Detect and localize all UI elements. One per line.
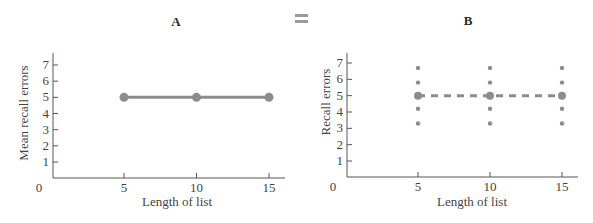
svg-text:0: 0 — [36, 180, 43, 195]
panel-a-x-label: Length of list — [142, 194, 212, 209]
panel-a-x-ticks: 051015 — [36, 173, 276, 195]
figure: A 1234567 051015 Mean recall errors Leng… — [0, 0, 593, 223]
svg-text:0: 0 — [330, 179, 337, 194]
svg-text:10: 10 — [484, 179, 497, 194]
panel-b-data-points — [414, 66, 566, 126]
panel-a-y-ticks: 1234567 — [43, 57, 59, 169]
panel-b: B 1234567 051015 Recall errors Length of… — [318, 13, 578, 209]
panel-a-y-label: Mean recall errors — [16, 65, 31, 160]
svg-text:5: 5 — [337, 88, 344, 103]
svg-text:6: 6 — [43, 73, 50, 88]
svg-text:1: 1 — [43, 154, 50, 169]
svg-text:7: 7 — [337, 55, 344, 70]
svg-text:15: 15 — [263, 180, 276, 195]
panel-b-y-label: Recall errors — [318, 69, 333, 136]
equals-icon — [295, 14, 308, 23]
svg-text:15: 15 — [556, 179, 569, 194]
svg-text:5: 5 — [43, 89, 50, 104]
svg-text:3: 3 — [43, 122, 50, 137]
svg-text:4: 4 — [43, 106, 50, 121]
svg-text:5: 5 — [121, 180, 128, 195]
svg-text:2: 2 — [337, 137, 344, 152]
svg-text:1: 1 — [337, 153, 344, 168]
panel-b-x-ticks: 051015 — [330, 172, 569, 194]
svg-text:4: 4 — [337, 104, 344, 119]
panel-a-title: A — [171, 14, 181, 29]
svg-text:6: 6 — [337, 71, 344, 86]
svg-text:3: 3 — [337, 120, 344, 135]
svg-text:10: 10 — [190, 180, 203, 195]
panel-b-x-label: Length of list — [437, 194, 507, 209]
svg-text:2: 2 — [43, 138, 50, 153]
panel-a: A 1234567 051015 Mean recall errors Leng… — [16, 14, 285, 209]
panel-a-data-line — [120, 93, 274, 102]
panel-b-title: B — [464, 13, 473, 28]
svg-text:5: 5 — [415, 179, 422, 194]
panel-b-y-ticks: 1234567 — [337, 55, 353, 168]
svg-text:7: 7 — [43, 57, 50, 72]
